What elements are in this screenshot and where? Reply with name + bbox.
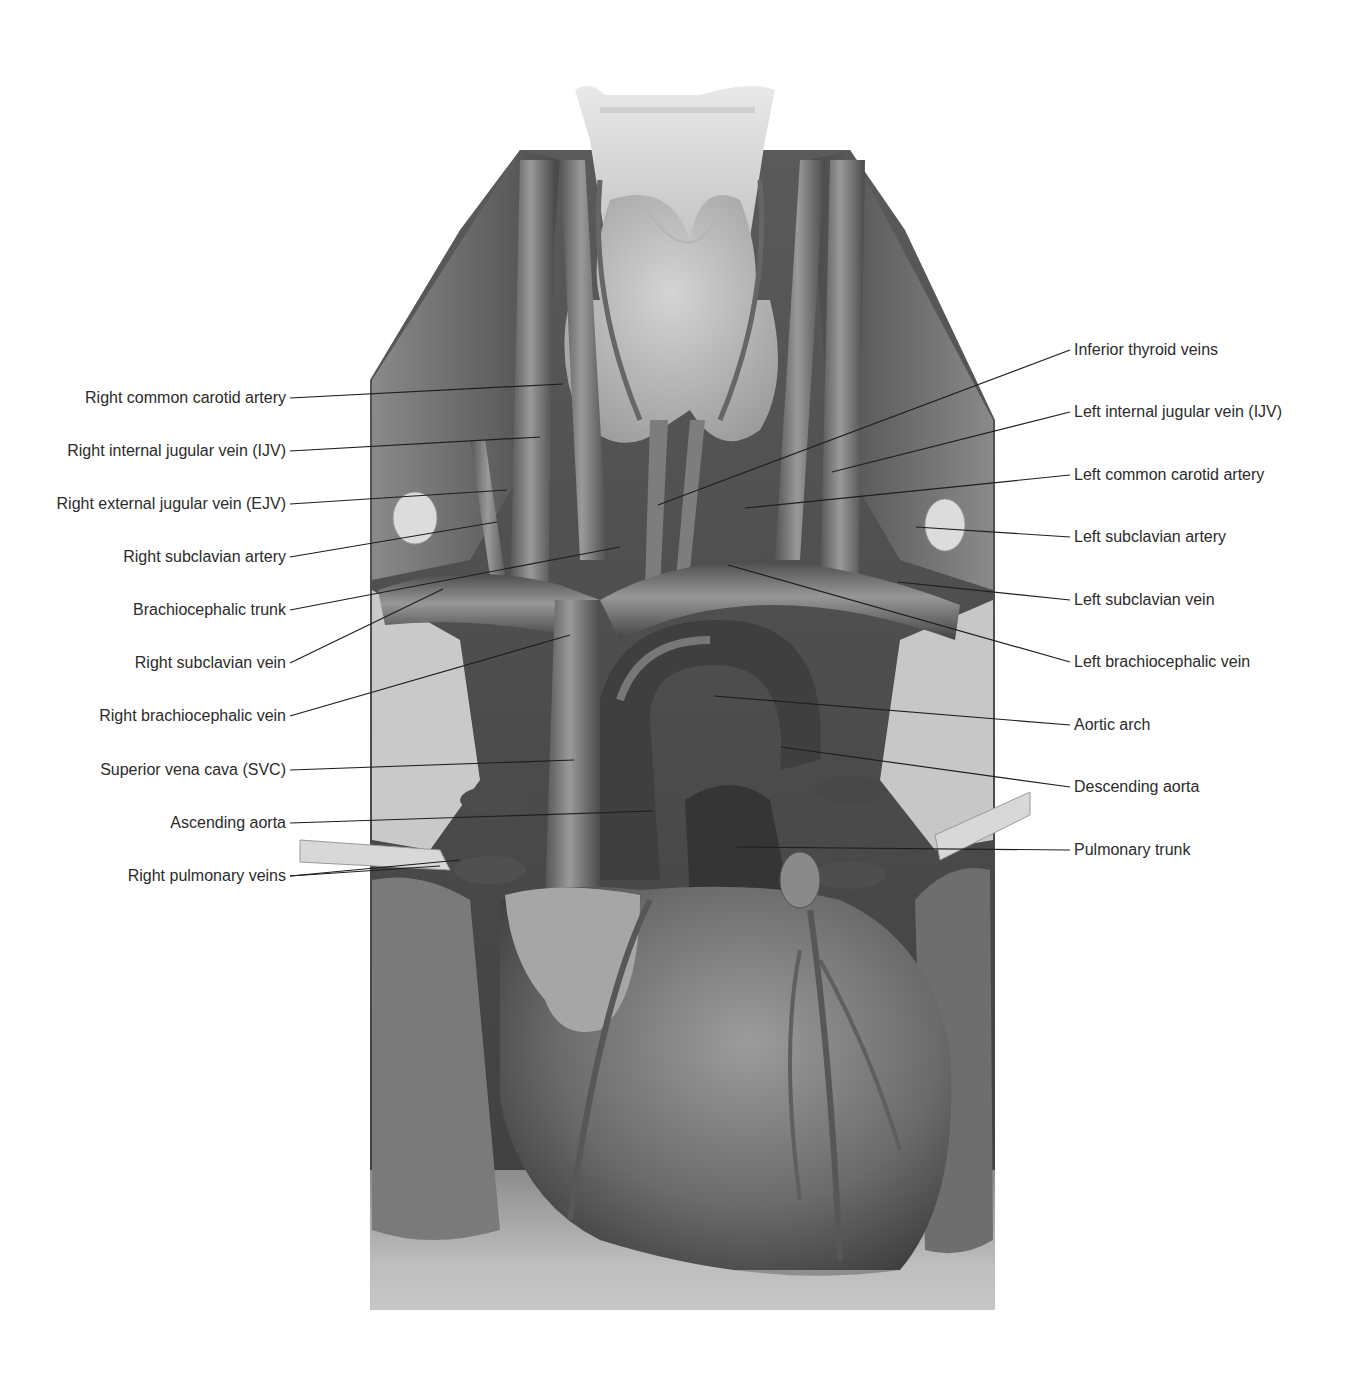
label-left-common-carotid-artery: Left common carotid artery [1074,466,1264,484]
label-descending-aorta: Descending aorta [1074,778,1199,796]
label-left-internal-jugular-vein-ijv: Left internal jugular vein (IJV) [1074,403,1282,421]
label-right-external-jugular-vein-ejv: Right external jugular vein (EJV) [57,495,286,513]
label-right-common-carotid-artery: Right common carotid artery [85,389,286,407]
label-brachiocephalic-trunk: Brachiocephalic trunk [133,601,286,619]
label-ascending-aorta: Ascending aorta [170,814,286,832]
label-right-subclavian-artery: Right subclavian artery [123,548,286,566]
label-inferior-thyroid-veins: Inferior thyroid veins [1074,341,1218,359]
label-pulmonary-trunk: Pulmonary trunk [1074,841,1191,859]
label-aortic-arch: Aortic arch [1074,716,1150,734]
diaphragm [370,1270,995,1310]
label-left-subclavian-vein: Left subclavian vein [1074,591,1215,609]
anatomy-illustration [0,0,1362,1397]
label-right-internal-jugular-vein-ijv: Right internal jugular vein (IJV) [67,442,286,460]
label-right-brachiocephalic-vein: Right brachiocephalic vein [99,707,286,725]
label-left-subclavian-artery: Left subclavian artery [1074,528,1226,546]
label-left-brachiocephalic-vein: Left brachiocephalic vein [1074,653,1250,671]
label-right-subclavian-vein: Right subclavian vein [135,654,286,672]
label-right-pulmonary-veins: Right pulmonary veins [128,867,286,885]
label-superior-vena-cava-svc: Superior vena cava (SVC) [100,761,286,779]
